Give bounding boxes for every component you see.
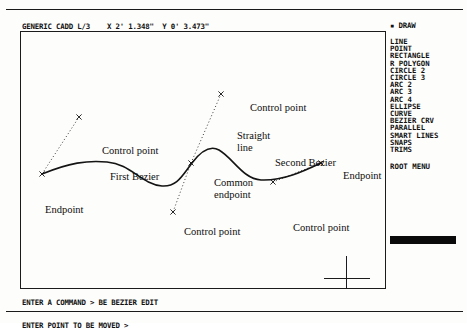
annotation-common-endpoint-1: Common [214, 177, 253, 189]
tangent-1 [42, 117, 79, 174]
command-prompt-area[interactable]: ENTER A COMMAND > BE BEZIER EDIT ENTER P… [22, 284, 158, 332]
page-rule-top [6, 9, 463, 10]
annotation-control-point-3: Control point [184, 226, 240, 238]
annotation-straight-line-2: line [237, 142, 253, 154]
crosshair-horizontal [324, 278, 370, 279]
draw-menu-panel[interactable]: ▪ DRAW LINEPOINTRECTANGLER POLYGONCIRCLE… [388, 21, 460, 287]
annotation-endpoint-left: Endpoint [45, 204, 84, 216]
annotation-first-bezier: First Bezier [110, 171, 159, 183]
annotation-endpoint-right: Endpoint [343, 170, 382, 182]
marker-control-3[interactable] [170, 209, 175, 214]
marker-control-2[interactable] [218, 91, 223, 96]
annotation-common-endpoint-2: endpoint [214, 189, 251, 201]
status-bar: GENERIC CADD L/3 X 2' 1.348" Y 0' 3.473" [22, 22, 209, 31]
annotation-control-point-2: Control point [250, 102, 306, 114]
menu-title-draw: ▪ DRAW [390, 21, 460, 30]
annotation-second-bezier: Second Bezier [275, 157, 336, 169]
command-line-1: ENTER A COMMAND > BE BEZIER EDIT [22, 299, 158, 307]
tangent-2 [191, 94, 221, 163]
menu-highlight-bar[interactable] [390, 236, 456, 244]
annotation-control-point-1: Control point [102, 145, 158, 157]
annotation-control-point-4: Control point [293, 222, 349, 234]
menu-item-root-menu[interactable]: ROOT MENU [388, 162, 460, 171]
crosshair-vertical [346, 256, 347, 289]
drawing-canvas[interactable]: Control pointFirst BezierEndpointControl… [20, 31, 386, 289]
command-line-2: ENTER POINT TO BE MOVED > [22, 322, 158, 330]
annotation-straight-line-1: Straight [237, 130, 270, 142]
crosshair-cursor[interactable] [324, 256, 370, 289]
menu-item-trims[interactable]: TRIMS [388, 146, 460, 153]
marker-control-1[interactable] [76, 114, 81, 119]
menu-item-list[interactable]: LINEPOINTRECTANGLER POLYGONCIRCLE 2CIRCL… [388, 38, 460, 153]
tangent-3 [173, 163, 191, 212]
